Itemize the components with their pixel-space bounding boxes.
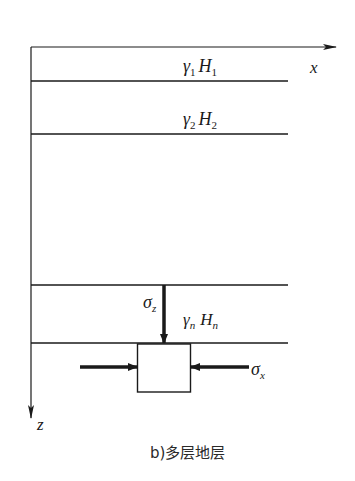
thickness-symbol: H [199, 56, 212, 76]
diagram-graphics [0, 0, 355, 481]
sigma-subscript: x [260, 369, 265, 381]
layer-n-label: γnHn [183, 310, 218, 331]
gamma-subscript: n [190, 319, 196, 331]
thickness-subscript: 2 [212, 119, 218, 131]
gamma-symbol: γ [183, 310, 190, 329]
x-axis-label: x [310, 58, 318, 78]
z-axis-label: z [37, 415, 44, 435]
sigma-symbol: σ [143, 292, 152, 312]
sigma-symbol: σ [251, 359, 260, 379]
figure-caption: b)多层地层 [150, 441, 225, 462]
sigma-subscript: z [152, 302, 156, 314]
thickness-symbol: H [199, 109, 212, 129]
layer-1-label: γ1H1 [183, 56, 217, 78]
gamma-subscript: 2 [190, 119, 196, 131]
soil-element-box [138, 344, 191, 392]
multilayer-stratum-diagram: x z γ1H1 γ2H2 γnHn σz σx b)多层地层 [0, 0, 355, 481]
sigma-z-label: σz [143, 292, 156, 314]
sigma-x-label: σx [251, 359, 265, 381]
thickness-subscript: n [212, 319, 218, 331]
gamma-subscript: 1 [190, 66, 196, 78]
thickness-symbol: H [200, 310, 212, 329]
thickness-subscript: 1 [212, 66, 218, 78]
layer-2-label: γ2H2 [183, 109, 217, 131]
